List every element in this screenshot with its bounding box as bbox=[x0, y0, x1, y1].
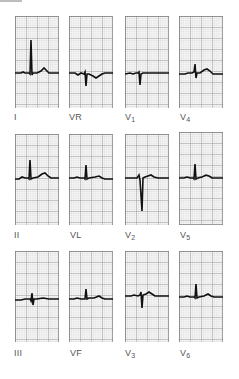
ecg-grid-V5 bbox=[179, 132, 223, 225]
ecg-lead-I bbox=[15, 16, 59, 108]
top-rule bbox=[0, 0, 22, 2]
ecg-grid-I bbox=[15, 16, 59, 108]
ecg-lead-V4 bbox=[179, 16, 223, 108]
ecg-lead-VL bbox=[69, 134, 113, 225]
ecg-lead-V1 bbox=[125, 16, 169, 108]
ecg-grid-VF bbox=[69, 251, 113, 342]
lead-label-V6: V6 bbox=[180, 348, 190, 359]
ecg-grid-II bbox=[15, 134, 59, 225]
lead-label-VF: VF bbox=[70, 348, 82, 359]
ecg-lead-VF bbox=[69, 251, 113, 342]
lead-label-V3: V3 bbox=[125, 348, 135, 359]
ecg-lead-V6 bbox=[179, 251, 223, 342]
lead-label-VL: VL bbox=[70, 230, 81, 241]
lead-label-II: II bbox=[14, 230, 19, 241]
lead-label-V4: V4 bbox=[180, 112, 190, 123]
lead-label-III: III bbox=[14, 348, 22, 359]
ecg-lead-V3 bbox=[125, 251, 169, 342]
ecg-grid-III bbox=[15, 251, 59, 342]
lead-label-V1: V1 bbox=[125, 112, 135, 123]
ecg-lead-II bbox=[15, 134, 59, 225]
lead-label-VR: VR bbox=[69, 112, 82, 123]
ecg-grid-V4 bbox=[179, 16, 223, 108]
lead-label-V5: V5 bbox=[180, 230, 190, 241]
ecg-lead-VR bbox=[69, 16, 113, 108]
lead-label-I: I bbox=[14, 112, 17, 123]
ecg-grid-VR bbox=[69, 16, 113, 108]
ecg-grid-V2 bbox=[125, 134, 169, 225]
ecg-lead-V5 bbox=[179, 132, 223, 225]
ecg-grid-V6 bbox=[179, 251, 223, 342]
lead-label-V2: V2 bbox=[125, 230, 135, 241]
ecg-lead-III bbox=[15, 251, 59, 342]
ecg-grid-VL bbox=[69, 134, 113, 225]
ecg-grid-V3 bbox=[125, 251, 169, 342]
ecg-grid-V1 bbox=[125, 16, 169, 108]
ecg-lead-V2 bbox=[125, 134, 169, 225]
